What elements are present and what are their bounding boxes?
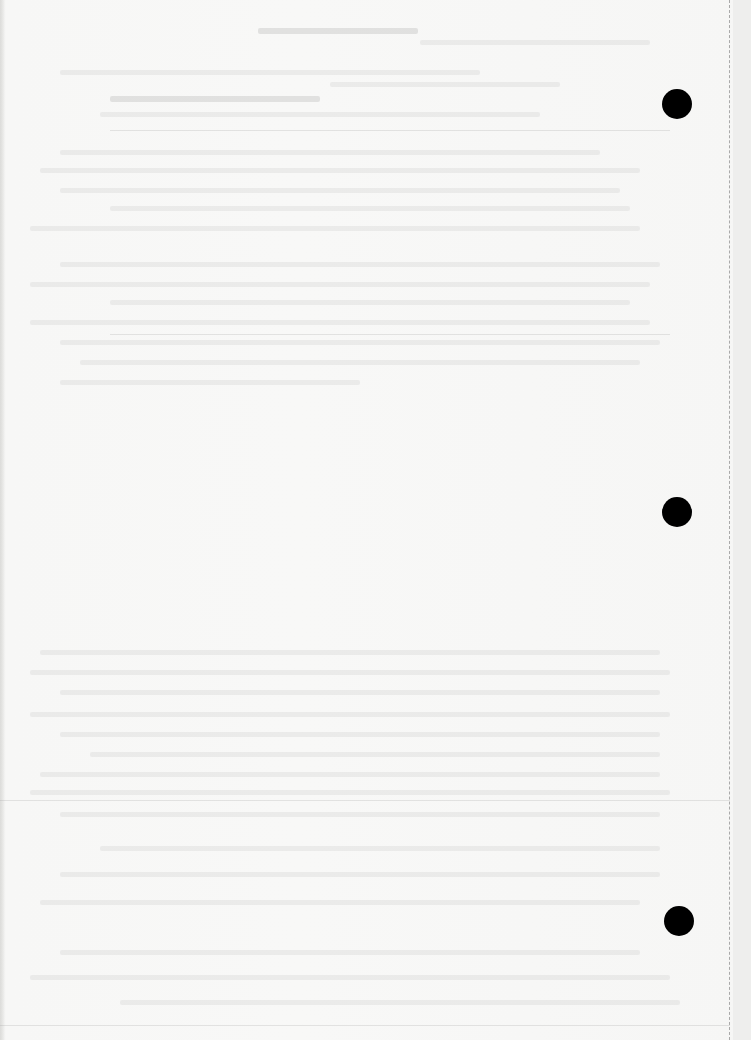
show-through-text-line bbox=[40, 900, 640, 905]
show-through-text-line bbox=[30, 670, 670, 675]
bottom-hole-punch-hole bbox=[664, 906, 694, 936]
show-through-text-line bbox=[30, 320, 650, 325]
show-through-text-line bbox=[258, 28, 418, 34]
show-through-text-line bbox=[60, 950, 640, 955]
show-through-text-line bbox=[110, 96, 320, 102]
scanned-page bbox=[0, 0, 751, 1040]
show-through-text-line bbox=[60, 70, 480, 75]
show-through-text-line bbox=[30, 282, 650, 287]
show-through-text-line bbox=[80, 360, 640, 365]
top-hole-punch-hole bbox=[662, 89, 692, 119]
perforation-line bbox=[729, 0, 730, 1040]
show-through-text-line bbox=[40, 650, 660, 655]
show-through-rule bbox=[0, 1025, 730, 1026]
show-through-text-line bbox=[100, 112, 540, 117]
show-through-text-line bbox=[110, 300, 630, 305]
show-through-text-line bbox=[30, 226, 640, 231]
show-through-text-line bbox=[60, 690, 660, 695]
show-through-text-line bbox=[60, 732, 660, 737]
show-through-text-line bbox=[120, 1000, 680, 1005]
binding-margin-strip bbox=[733, 0, 751, 1040]
show-through-text-line bbox=[330, 82, 560, 87]
show-through-text-line bbox=[60, 812, 660, 817]
show-through-rule bbox=[110, 130, 670, 131]
show-through-text-line bbox=[420, 40, 650, 45]
show-through-text-line bbox=[90, 752, 660, 757]
show-through-text-line bbox=[30, 790, 670, 795]
show-through-text-line bbox=[30, 975, 670, 980]
show-through-text-line bbox=[60, 380, 360, 385]
show-through-text-line bbox=[40, 168, 640, 173]
page-edge-shadow bbox=[0, 0, 5, 1040]
show-through-text-line bbox=[60, 150, 600, 155]
show-through-text-line bbox=[60, 340, 660, 345]
show-through-text-line bbox=[60, 872, 660, 877]
show-through-text-line bbox=[30, 712, 670, 717]
show-through-text-line bbox=[100, 846, 660, 851]
show-through-text-line bbox=[110, 206, 630, 211]
middle-hole-punch-hole bbox=[662, 497, 692, 527]
show-through-rule bbox=[0, 800, 730, 801]
show-through-text-line bbox=[40, 772, 660, 777]
show-through-rule bbox=[110, 334, 670, 335]
show-through-text-line bbox=[60, 262, 660, 267]
show-through-text-line bbox=[60, 188, 620, 193]
